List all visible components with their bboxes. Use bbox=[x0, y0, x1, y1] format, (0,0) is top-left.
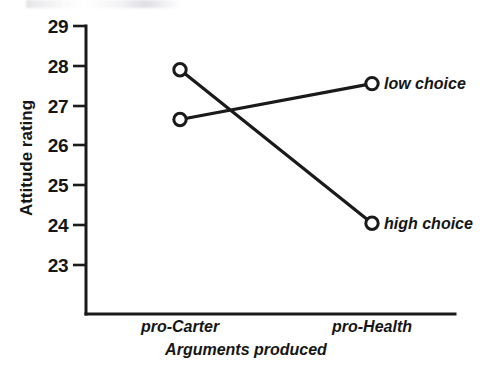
series-label-low-choice: low choice bbox=[384, 76, 466, 92]
series-label-high-choice: high choice bbox=[384, 216, 473, 232]
series-low-choice-line bbox=[180, 84, 372, 120]
y-tick-label-29: 29 bbox=[30, 17, 68, 36]
series-high-choice-line bbox=[180, 70, 372, 224]
y-axis-title: Attitude rating bbox=[17, 68, 37, 248]
x-axis-title: Arguments produced bbox=[0, 341, 492, 359]
y-tick-label-23: 23 bbox=[30, 256, 68, 275]
y-axis-ticks bbox=[73, 26, 86, 265]
x-tick-label-pro-health: pro-Health bbox=[307, 318, 437, 336]
series-low-choice bbox=[174, 77, 378, 125]
data-point-high-choice-pro-carter bbox=[174, 64, 186, 76]
data-point-low-choice-pro-carter bbox=[174, 113, 186, 125]
data-point-high-choice-pro-health bbox=[366, 217, 378, 229]
x-tick-label-pro-carter: pro-Carter bbox=[115, 318, 245, 336]
chart-figure: 29 28 27 26 25 24 23 Attitude rating pro… bbox=[0, 0, 492, 386]
data-point-low-choice-pro-health bbox=[366, 77, 378, 89]
